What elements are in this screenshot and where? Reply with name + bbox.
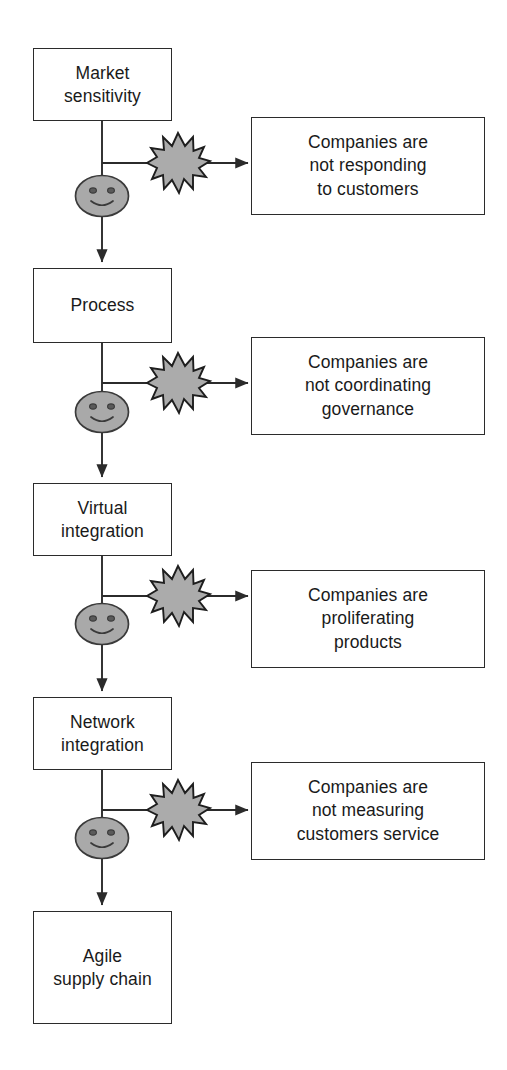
issue-line-3: customers service xyxy=(291,823,446,846)
issue-box-responding[interactable]: Companies arenot respondingto customers xyxy=(251,117,485,215)
starburst-icon xyxy=(147,780,210,840)
issue-line-3: governance xyxy=(299,398,437,421)
diagram-canvas: Marketsensitivity Process Virtualintegra… xyxy=(0,0,507,1070)
smiley-face-icon xyxy=(76,392,129,433)
flow-node-label-line1: Network xyxy=(57,711,148,734)
flow-node-label-line1: Process xyxy=(67,294,139,317)
flow-node-label: Networkintegration xyxy=(53,711,152,757)
issue-line-3: products xyxy=(302,631,434,654)
flow-node-label-line1: Market xyxy=(60,62,145,85)
flow-node-label: Agilesupply chain xyxy=(45,945,159,991)
flow-node-label-line2: supply chain xyxy=(49,968,155,991)
starburst-icon xyxy=(147,566,210,626)
issue-line-1: Companies are xyxy=(291,776,446,799)
starburst-icon xyxy=(147,353,210,413)
issue-box-measuring[interactable]: Companies arenot measuringcustomers serv… xyxy=(251,762,485,860)
flow-node-label: Process xyxy=(63,294,143,317)
issue-line-1: Companies are xyxy=(299,351,437,374)
smiley-face-icon xyxy=(76,176,129,217)
issue-line-3: to customers xyxy=(302,178,434,201)
smiley-face-icon xyxy=(76,604,129,645)
flow-node-label-line2: sensitivity xyxy=(60,85,145,108)
issue-line-1: Companies are xyxy=(302,131,434,154)
flow-node-label-line2: integration xyxy=(57,734,148,757)
flow-node-label-line2: integration xyxy=(57,520,148,543)
issue-line-2: proliferating xyxy=(302,607,434,630)
issue-line-2: not measuring xyxy=(291,799,446,822)
issue-line-2: not responding xyxy=(302,154,434,177)
issue-box-text: Companies arenot respondingto customers xyxy=(296,131,440,200)
smiley-face-icon xyxy=(76,818,129,859)
issue-box-proliferating[interactable]: Companies areproliferatingproducts xyxy=(251,570,485,668)
starburst-icon xyxy=(147,133,210,193)
flow-node-process[interactable]: Process xyxy=(33,268,172,343)
flow-node-virtual-integration[interactable]: Virtualintegration xyxy=(33,483,172,556)
issue-box-text: Companies arenot coordinatinggovernance xyxy=(293,351,443,420)
flow-node-label: Marketsensitivity xyxy=(56,62,149,108)
flow-node-label: Virtualintegration xyxy=(53,497,152,543)
issue-line-1: Companies are xyxy=(302,584,434,607)
flow-node-network-integration[interactable]: Networkintegration xyxy=(33,697,172,770)
issue-box-text: Companies arenot measuringcustomers serv… xyxy=(285,776,452,845)
flow-node-market-sensitivity[interactable]: Marketsensitivity xyxy=(33,48,172,121)
issue-line-2: not coordinating xyxy=(299,374,437,397)
issue-box-coordinating[interactable]: Companies arenot coordinatinggovernance xyxy=(251,337,485,435)
flow-node-label-line1: Agile xyxy=(49,945,155,968)
flow-node-agile-supply-chain[interactable]: Agilesupply chain xyxy=(33,911,172,1024)
flow-node-label-line1: Virtual xyxy=(57,497,148,520)
issue-box-text: Companies areproliferatingproducts xyxy=(296,584,440,653)
